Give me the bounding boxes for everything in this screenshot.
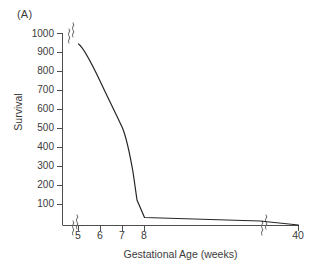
survival-curve-line — [79, 44, 299, 225]
figure-panel-a: (A) Survival Gestational Age (weeks) 100… — [0, 0, 317, 269]
y-axis-break-icon — [68, 23, 74, 43]
plot-area — [0, 0, 317, 269]
y-tick-marks — [57, 34, 63, 205]
